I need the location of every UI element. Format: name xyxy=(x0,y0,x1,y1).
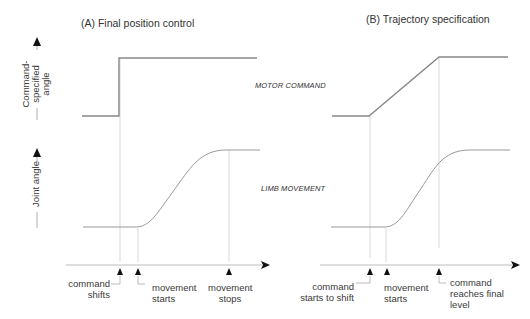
limb-movement-trace xyxy=(83,150,260,227)
marker-label-movement-starts: movement starts xyxy=(152,282,196,304)
marker-arrow-icon xyxy=(436,268,442,275)
y-label-command-angle: Command- specified angle xyxy=(21,53,53,115)
marker-arrow-icon xyxy=(367,268,373,275)
marker-label-command-shifts: command shifts xyxy=(60,278,110,300)
diagram-canvas xyxy=(0,0,530,319)
y-label-joint-angle: Joint angle xyxy=(31,149,43,219)
motor-command-ramp-trace xyxy=(332,57,508,116)
right-arrow-icon xyxy=(261,261,270,269)
marker-label-command-reaches-final: command reaches final level xyxy=(450,277,504,310)
marker-arrow-icon xyxy=(384,268,390,275)
motor-command-label: MOTOR COMMAND xyxy=(255,81,326,90)
right-arrow-icon xyxy=(511,261,520,269)
limb-movement-trace xyxy=(331,150,510,227)
panel-a-title: (A) Final position control xyxy=(81,17,194,29)
up-arrow-icon xyxy=(33,37,41,46)
marker-label-movement-starts-b: movement starts xyxy=(384,282,428,304)
panel-a xyxy=(66,58,270,284)
panel-b-title: (B) Trajectory specification xyxy=(366,13,490,25)
marker-arrow-icon xyxy=(226,268,232,275)
panel-b xyxy=(320,57,520,283)
limb-movement-label: LIMB MOVEMENT xyxy=(261,184,325,193)
motor-command-step-trace xyxy=(82,58,257,116)
marker-arrow-icon xyxy=(117,268,123,275)
marker-label-command-starts-to-shift: command starts to shift xyxy=(298,281,354,303)
marker-arrow-icon xyxy=(135,268,141,275)
marker-label-movement-stops: movement stops xyxy=(208,282,252,304)
